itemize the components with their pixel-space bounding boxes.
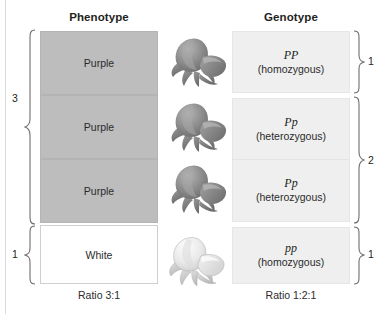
genotype-row: Pp (heterozygous) [232, 98, 350, 160]
genotype-bracket-count: 2 [368, 154, 374, 166]
genotype-row: pp (homozygous) [232, 227, 350, 284]
rose-white-icon [166, 232, 228, 290]
phenotype-bracket-3 [24, 29, 36, 225]
genotype-bracket-1 [353, 30, 365, 94]
genotype-column-heading: Genotype [232, 11, 350, 23]
genotype-bracket-count: 1 [368, 248, 374, 260]
phenotype-label: Purple [84, 57, 114, 69]
rose-purple-icon [168, 98, 230, 156]
rose-purple-icon [168, 160, 230, 218]
phenotype-bracket-count: 1 [12, 248, 18, 260]
phenotype-ratio-caption: Ratio 3:1 [40, 289, 158, 301]
genotype-ratio-caption: Ratio 1:2:1 [232, 289, 350, 301]
phenotype-column-heading: Phenotype [40, 11, 158, 23]
genotype-bracket-2 [353, 96, 365, 224]
punnett-ratio-figure: Phenotype Genotype Purple Purple Purple … [0, 0, 387, 314]
phenotype-label: Purple [84, 185, 114, 197]
rose-purple-icon [168, 33, 230, 91]
genotype-zygosity: (homozygous) [258, 63, 325, 76]
genotype-allele: Pp [284, 115, 297, 130]
phenotype-bracket-count: 3 [12, 92, 18, 104]
phenotype-label: Purple [84, 121, 114, 133]
phenotype-row: Purple [40, 159, 158, 223]
genotype-row: PP (homozygous) [232, 31, 350, 93]
genotype-bracket-count: 1 [368, 55, 374, 67]
genotype-zygosity: (heterozygous) [256, 130, 326, 143]
phenotype-row: Purple [40, 95, 158, 159]
page-edge-rule [5, 0, 6, 314]
genotype-allele: PP [284, 48, 299, 63]
genotype-row: Pp (heterozygous) [232, 160, 350, 222]
phenotype-row: White [40, 225, 158, 284]
genotype-zygosity: (homozygous) [258, 256, 325, 269]
genotype-allele: pp [285, 241, 297, 256]
genotype-zygosity: (heterozygous) [256, 191, 326, 204]
genotype-bracket-1b [353, 226, 365, 285]
phenotype-bracket-1 [24, 225, 36, 285]
genotype-allele: Pp [284, 176, 297, 191]
phenotype-label: White [86, 249, 113, 261]
phenotype-row: Purple [40, 31, 158, 95]
